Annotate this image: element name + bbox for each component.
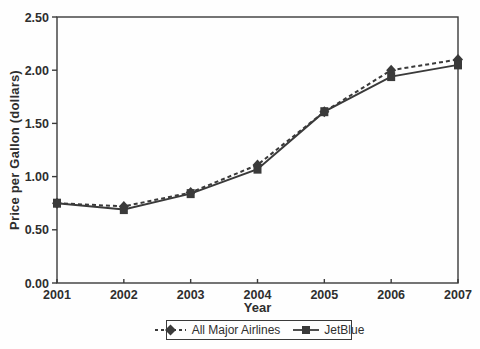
x-tick-label: 2003	[177, 288, 205, 300]
plot-frame	[57, 17, 458, 283]
y-tick-label: 0.50	[25, 223, 49, 237]
x-axis-title: Year	[57, 300, 458, 315]
y-tick-label: 2.00	[25, 64, 49, 78]
jetblue-data-point	[120, 205, 128, 214]
solid-square-marker-icon	[293, 324, 319, 336]
line-chart-figure: Price per Gallon (dollars) 0.000.501.001…	[0, 0, 480, 349]
jetblue-data-point	[254, 165, 262, 174]
dashed-diamond-marker-icon	[154, 324, 187, 336]
jetblue-data-point	[387, 72, 395, 81]
x-tick-label: 2007	[444, 288, 472, 300]
y-tick-label: 1.00	[25, 170, 49, 184]
y-tick-label: 1.50	[25, 117, 49, 131]
jetblue-data-point	[53, 199, 61, 208]
x-tick-label: 2002	[110, 288, 138, 300]
legend-item-all-major-airlines: All Major Airlines	[154, 323, 281, 337]
legend-label-all-major-airlines: All Major Airlines	[192, 323, 281, 337]
legend-item-jetblue: JetBlue	[293, 323, 364, 337]
jetblue-data-point	[187, 189, 195, 198]
jetblue-data-point	[320, 107, 328, 116]
chart-legend: All Major Airlines JetBlue	[166, 320, 352, 340]
jetblue-data-point	[454, 60, 462, 69]
all-major-airlines-line	[57, 60, 458, 207]
y-tick-label: 2.50	[25, 11, 49, 25]
jetblue-line	[57, 65, 458, 210]
x-tick-label: 2006	[377, 288, 405, 300]
legend-label-jetblue: JetBlue	[324, 323, 364, 337]
x-tick-label: 2001	[43, 288, 71, 300]
x-tick-label: 2005	[310, 288, 338, 300]
plot-area: 0.000.501.001.502.002.502001200220032004…	[0, 0, 480, 300]
x-tick-label: 2004	[244, 288, 272, 300]
